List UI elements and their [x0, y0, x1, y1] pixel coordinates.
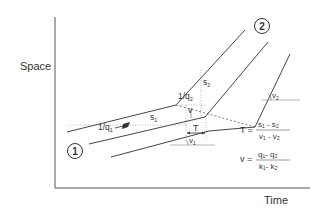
trajectory-line-3 [111, 54, 290, 157]
formula-T-denominator: v₁ - v₂ [259, 132, 280, 141]
v2-label: v2 [272, 91, 279, 101]
x-axis-label: Time [264, 194, 288, 206]
v-label: v [188, 105, 193, 115]
vehicle-icon [122, 122, 130, 129]
region-2-label: 2 [259, 21, 265, 32]
s1-label: s1 [150, 112, 157, 123]
region-1-label: 1 [72, 146, 78, 157]
inv-q1-label: 1/q1 [98, 122, 113, 133]
y-axis-label: Space [20, 60, 51, 72]
formula-T-numerator: s₁ - s₂ [258, 120, 279, 129]
formula-T-lhs: T = [240, 125, 253, 135]
s2-label: s2 [203, 77, 210, 88]
formula-v-denominator: k₁- k₂ [259, 162, 278, 171]
pointer-line [115, 126, 123, 128]
v1-label: v1 [189, 136, 196, 146]
T-label: T [193, 123, 199, 133]
formula-v-lhs: v = [240, 154, 252, 164]
v1-angle-arc [186, 140, 188, 145]
traffic-shockwave-diagram: Space Time 1/q1 1/q2 s1 s2 v T v1 v2 1 2… [0, 0, 326, 215]
inv-q2-label: 1/q2 [178, 91, 193, 102]
formula-v-numerator: q₁- q₂ [258, 150, 278, 159]
T-arrowhead-left-icon [187, 132, 190, 135]
